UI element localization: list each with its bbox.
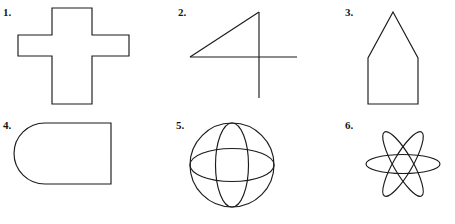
rounded-d-shape <box>12 118 122 210</box>
numeral-four-shape <box>185 6 305 106</box>
six-petal-rosette-shape <box>353 118 453 218</box>
figure-cell-1: 1. <box>0 0 155 112</box>
figure-cell-4: 4. <box>0 112 155 224</box>
cross-shape <box>14 5 134 107</box>
figure-label-5: 5. <box>176 120 184 131</box>
figure-label-6: 6. <box>345 120 353 131</box>
house-pentagon-shape <box>352 6 452 108</box>
figure-cell-5: 5. <box>155 112 310 224</box>
figure-cell-2: 2. <box>155 0 310 112</box>
sphere-globe-shape <box>185 118 295 218</box>
figure-cell-3: 3. <box>310 0 455 112</box>
worksheet-page: 1. 2. 3. 4. 5. 6. <box>0 0 455 224</box>
figure-cell-6: 6. <box>310 112 455 224</box>
figure-label-4: 4. <box>3 120 11 131</box>
figure-label-1: 1. <box>3 7 11 18</box>
